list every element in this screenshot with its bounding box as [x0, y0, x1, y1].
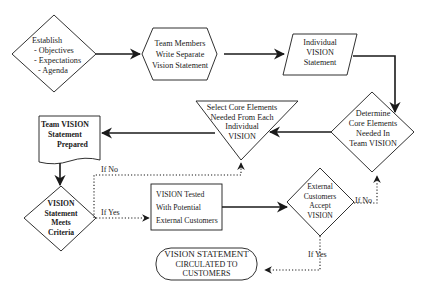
accept-yes-label: If Yes [308, 250, 327, 259]
criteria-no-label: If No [101, 165, 118, 174]
team-members-label: Team Members Write Separate Vision State… [145, 38, 215, 71]
circulated-label: VISION STATEMENT CIRCULATED TO CUSTOMERS [156, 250, 257, 279]
select-core-label: Select Core Elements Needed From Each In… [200, 103, 284, 141]
accept-no-label: If No [355, 196, 372, 205]
establish-label: Establish - Objectives - Expectations - … [32, 36, 81, 76]
vision-tested-label: VISION Tested With Potential External Cu… [156, 188, 218, 227]
determine-core-label: Determine Core Elements Needed In Team V… [340, 109, 406, 149]
criteria-yes-label: If Yes [101, 208, 120, 217]
individual-vision-label: Individual VISION Statement [290, 38, 350, 68]
customers-accept-label: External Customers Accept VISION [294, 182, 346, 220]
team-statement-label: Team VISION Statement Prepared [41, 120, 89, 150]
meets-criteria-label: VISION Statement Meets Criteria [36, 199, 86, 237]
